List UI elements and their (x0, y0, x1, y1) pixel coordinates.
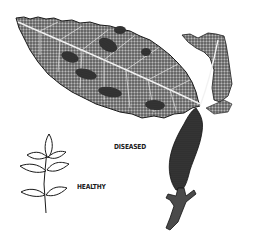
healthy-compound-leaf (20, 134, 69, 213)
diseased-label: DISEASED (114, 143, 146, 151)
illustration: DISEASED HEALTHY (0, 0, 253, 247)
illustration-art (0, 0, 253, 247)
healthy-label: HEALTHY (77, 183, 106, 191)
diseased-leaf (16, 17, 200, 118)
diseased-stem-gall (166, 108, 203, 230)
